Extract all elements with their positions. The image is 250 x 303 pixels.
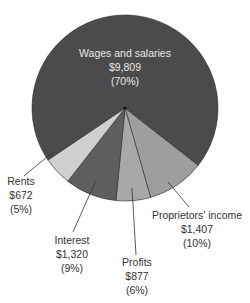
pie-chart: Wages and salaries $9,809 (70%) Rents $6… xyxy=(0,0,250,303)
leader-line-rents xyxy=(24,152,53,176)
label-rents-pct: (5%) xyxy=(10,203,32,215)
label-wages-value: $9,809 xyxy=(109,61,141,73)
label-profits-value: $877 xyxy=(125,270,149,282)
label-rents-name: Rents xyxy=(7,175,34,187)
label-proprietors-pct: (10%) xyxy=(183,237,211,249)
label-interest-value: $1,320 xyxy=(56,248,88,260)
label-wages-name: Wages and salaries xyxy=(79,47,171,59)
label-interest: Interest $1,320 (9%) xyxy=(54,234,89,274)
label-wages-pct: (70%) xyxy=(111,75,139,87)
pie-slices xyxy=(32,15,218,201)
label-proprietors-value: $1,407 xyxy=(181,223,213,235)
label-rents-value: $672 xyxy=(9,189,33,201)
label-interest-name: Interest xyxy=(54,234,89,246)
label-interest-pct: (9%) xyxy=(61,262,83,274)
leader-line-proprietors xyxy=(168,182,189,207)
label-proprietors: Proprietors' income $1,407 (10%) xyxy=(152,209,242,249)
center-dot xyxy=(123,106,126,109)
label-proprietors-name: Proprietors' income xyxy=(152,209,242,221)
label-rents: Rents $672 (5%) xyxy=(7,175,34,215)
label-profits-name: Profits xyxy=(122,256,152,268)
label-profits: Profits $877 (6%) xyxy=(122,256,152,296)
label-profits-pct: (6%) xyxy=(126,284,148,296)
